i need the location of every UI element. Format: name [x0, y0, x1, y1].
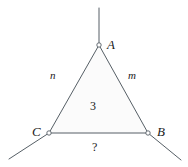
edge-label-m: m — [128, 70, 136, 81]
ray-from-vertex-c — [9, 133, 49, 159]
vertex-node-b — [146, 131, 150, 135]
vertex-node-c — [47, 131, 51, 135]
edge-label-unknown: ? — [92, 141, 97, 153]
vertex-label-a: A — [107, 38, 115, 51]
vertex-label-b: B — [157, 125, 165, 138]
triangle-fill — [49, 45, 148, 133]
vertex-label-c: C — [32, 125, 41, 138]
edge-label-n: n — [50, 70, 56, 81]
interior-label: 3 — [90, 100, 96, 112]
geometry-figure: A B C n m 3 ? — [0, 0, 188, 167]
vertex-node-a — [97, 43, 101, 47]
